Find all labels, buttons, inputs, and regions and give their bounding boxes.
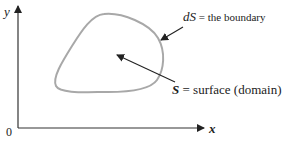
origin-label: 0 <box>6 126 12 138</box>
boundary-pointer-arrow <box>161 27 183 40</box>
boundary-symbol: dS <box>183 9 196 24</box>
surface-text: = surface (domain) <box>179 82 281 97</box>
boundary-curve <box>55 14 163 92</box>
domain-boundary-diagram: y x 0 dS = the boundary S = surface (dom… <box>0 0 284 143</box>
surface-pointer-arrow <box>117 55 175 82</box>
surface-annotation: S = surface (domain) <box>172 83 282 96</box>
boundary-text: = the boundary <box>196 11 265 23</box>
x-axis-label: x <box>209 122 216 135</box>
boundary-annotation: dS = the boundary <box>183 10 265 23</box>
y-axis-label: y <box>4 5 10 18</box>
